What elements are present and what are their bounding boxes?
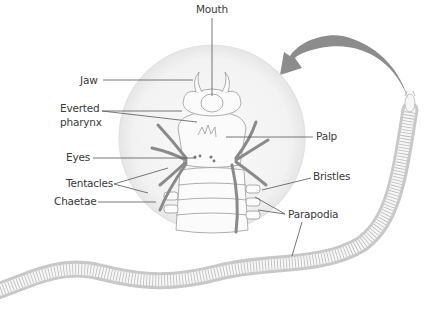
label-tentacles: Tentacles — [66, 177, 113, 190]
label-bristles: Bristles — [313, 170, 350, 183]
label-jaw: Jaw — [80, 74, 98, 87]
label-chaetae: Chaetae — [54, 195, 97, 208]
label-mouth: Mouth — [196, 3, 228, 16]
label-eyes: Eyes — [66, 151, 90, 164]
diagram-canvas: Mouth Jaw Everted pharynx Eyes Tentacles… — [0, 0, 441, 311]
label-pharynx: pharynx — [60, 116, 102, 129]
label-everted: Everted — [60, 102, 99, 115]
magnify-arrow — [280, 35, 409, 101]
label-parapodia: Parapodia — [288, 208, 338, 221]
label-palp: Palp — [316, 130, 337, 143]
